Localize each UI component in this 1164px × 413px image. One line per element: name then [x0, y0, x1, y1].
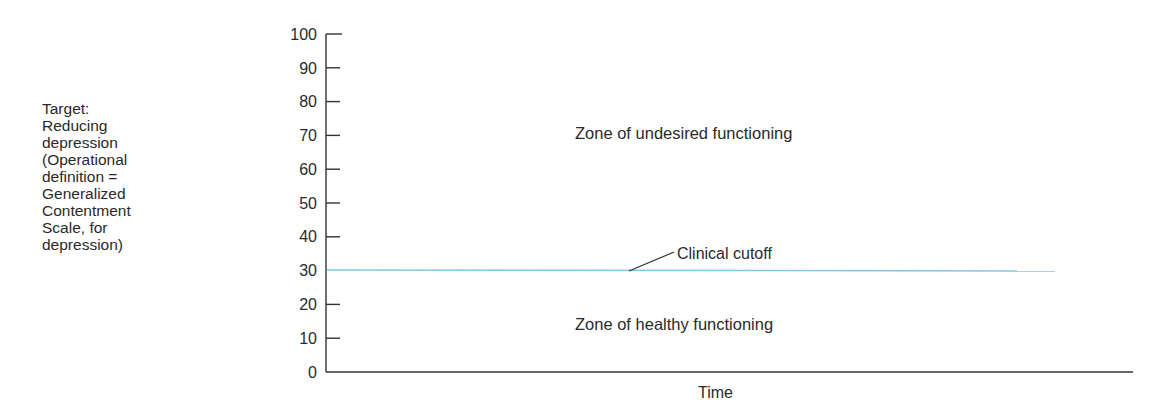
clinical-cutoff-label: Clinical cutoff — [677, 245, 772, 262]
x-axis-label: Time — [698, 384, 733, 401]
clinical-cutoff-line — [327, 270, 1055, 271]
tick-label-30: 30 — [299, 262, 317, 279]
tick-label-0: 0 — [308, 364, 317, 381]
zone-healthy-label: Zone of healthy functioning — [575, 315, 773, 333]
chart-canvas: 100 90 80 70 60 50 40 30 20 10 0 Clinica… — [0, 0, 1164, 413]
tick-label-20: 20 — [299, 296, 317, 313]
tick-label-40: 40 — [299, 228, 317, 245]
y-axis-ticks — [326, 34, 342, 338]
tick-label-70: 70 — [299, 127, 317, 144]
cutoff-leader-line — [629, 252, 674, 271]
tick-label-50: 50 — [299, 195, 317, 212]
y-tick-labels: 100 90 80 70 60 50 40 30 20 10 0 — [290, 26, 317, 381]
zone-undesired-label: Zone of undesired functioning — [575, 124, 792, 142]
tick-label-60: 60 — [299, 161, 317, 178]
tick-label-80: 80 — [299, 93, 317, 110]
tick-label-90: 90 — [299, 60, 317, 77]
tick-label-10: 10 — [299, 330, 317, 347]
tick-label-100: 100 — [290, 26, 317, 43]
